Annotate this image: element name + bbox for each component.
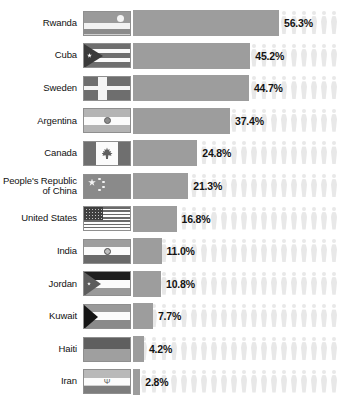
bar-container: 24.8% [133,140,337,166]
value-bar [133,206,177,232]
value-label: 56.3% [284,17,313,29]
country-label: Kuwait [0,311,82,322]
value-label: 24.8% [202,147,231,159]
bar-container: 11.0% [133,238,337,264]
country-label: Argentina [0,116,82,127]
flag-rwanda-icon [83,11,131,36]
value-bar [133,43,250,69]
flag-iran-icon: Ψ [83,369,131,394]
country-label: Canada [0,148,82,159]
value-bar [133,369,140,395]
bar-container: 10.8% [133,271,337,297]
value-label: 7.7% [158,310,181,322]
value-label: 21.3% [193,180,222,192]
country-label: Cuba [0,50,82,61]
value-label: 2.8% [145,376,168,388]
bar-container: 45.2% [133,43,337,69]
country-label: Rwanda [0,18,82,29]
flag-cuba-icon [83,43,131,68]
value-bar [133,336,144,362]
country-label: Iran [0,376,82,387]
chart-row: Cuba45.2% [0,41,337,71]
value-bar [133,303,153,329]
value-bar [133,75,249,101]
value-bar [133,173,188,199]
value-bar [133,238,162,264]
value-bar [133,10,279,36]
chart-row: Kuwait7.7% [0,301,337,331]
value-label: 45.2% [255,50,284,62]
bar-container: 21.3% [133,173,337,199]
chart-row: IranΨ2.8% [0,367,337,397]
country-label: People's Republic of China [0,176,82,197]
bar-container: 7.7% [133,303,337,329]
country-label: Sweden [0,83,82,94]
country-label: Jordan [0,279,82,290]
bar-container: 2.8% [133,369,337,395]
bar-container: 56.3% [133,10,337,36]
value-label: 10.8% [166,278,195,290]
chart-row: Argentina37.4% [0,106,337,136]
flag-jordan-icon [83,271,131,296]
value-label: 44.7% [254,82,283,94]
chart-row: Canada24.8% [0,138,337,168]
flag-argentina-icon [83,108,131,133]
value-bar [133,271,161,297]
value-bar [133,108,230,134]
bar-container: 37.4% [133,108,337,134]
country-label: India [0,246,82,257]
chart-row: Haiti4.2% [0,334,337,364]
country-label: United States [0,213,82,224]
value-label: 4.2% [149,343,172,355]
chart-row: India11.0% [0,236,337,266]
value-label: 37.4% [235,115,264,127]
chart-row: United States16.8% [0,204,337,234]
value-label: 16.8% [182,213,211,225]
chart-row: People's Republic of China21.3% [0,171,337,201]
chart-rows: Rwanda56.3%Cuba45.2%Sweden44.7%Argentina… [0,0,337,403]
bar-container: 44.7% [133,75,337,101]
chart-row: Sweden44.7% [0,73,337,103]
flag-sweden-icon [83,76,131,101]
flag-india-icon [83,239,131,264]
flag-canada-icon [83,141,131,166]
value-label: 11.0% [167,245,195,257]
flag-kuwait-icon [83,304,131,329]
value-bar [133,140,197,166]
flag-united-states-icon [83,206,131,231]
pictogram-bar-chart: Rwanda56.3%Cuba45.2%Sweden44.7%Argentina… [0,0,337,403]
bar-container: 16.8% [133,206,337,232]
flag-china-icon [83,174,131,199]
chart-row: Rwanda56.3% [0,8,337,38]
chart-row: Jordan10.8% [0,269,337,299]
bar-container: 4.2% [133,336,337,362]
country-label: Haiti [0,344,82,355]
flag-haiti-icon [83,337,131,362]
